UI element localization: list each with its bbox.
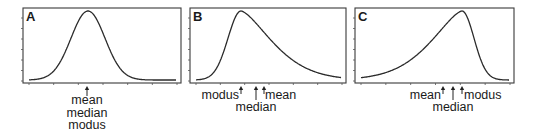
- arrow-up-icon: [254, 86, 258, 90]
- annotation: mean: [262, 86, 297, 102]
- plot-frame: [23, 8, 181, 83]
- annotation-label: modus: [201, 88, 239, 102]
- plot-frame: [355, 8, 514, 83]
- annotation: meanmedianmodus: [67, 86, 108, 132]
- annotation-label: median: [236, 100, 277, 114]
- panel-a: Ameanmedianmodus: [21, 8, 181, 132]
- annotation-label: modus: [68, 118, 106, 132]
- figure: AmeanmedianmodusBmodusmedianmeanCmeanmed…: [0, 0, 537, 137]
- density-curve: [29, 11, 176, 80]
- arrow-up-icon: [85, 86, 89, 90]
- arrow-up-icon: [441, 86, 445, 90]
- annotation-label: mean: [265, 88, 296, 102]
- annotation: modus: [460, 86, 502, 102]
- panel-label: B: [193, 9, 202, 24]
- panel-label: A: [26, 9, 36, 24]
- annotation-label: median: [433, 100, 474, 114]
- panel-c: Cmeanmedianmodus: [353, 8, 514, 114]
- density-curve: [196, 11, 341, 80]
- density-curve: [361, 11, 509, 80]
- distribution-figure: AmeanmedianmodusBmodusmedianmeanCmeanmed…: [0, 0, 537, 137]
- panel-label: C: [358, 9, 368, 24]
- arrow-up-icon: [239, 86, 243, 90]
- panel-b: Bmodusmedianmean: [188, 8, 346, 114]
- arrow-up-icon: [451, 86, 455, 90]
- annotation-label: modus: [464, 88, 502, 102]
